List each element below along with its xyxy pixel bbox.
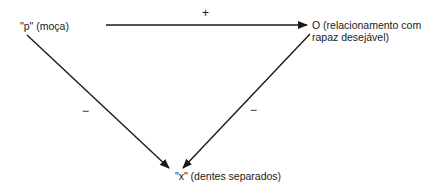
node-o-label-line1: O (relacionamento com <box>312 19 421 31</box>
node-x-label: "x" (dentes separados) <box>175 170 281 182</box>
edge-p-o-sign: + <box>202 7 209 19</box>
node-o-label-line2: rapaz desejável) <box>312 31 389 43</box>
edge-p-to-x-arrow <box>27 35 169 168</box>
edge-o-x-sign: − <box>250 104 257 116</box>
edge-o-to-x-arrow <box>183 34 310 168</box>
node-p-label: "p" (moça) <box>20 20 69 32</box>
edge-p-x-sign: − <box>82 105 89 117</box>
